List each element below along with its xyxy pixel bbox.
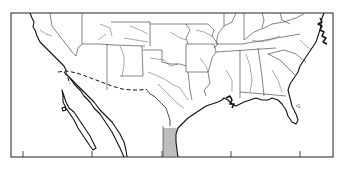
gulf-coastline xyxy=(176,13,324,157)
bottom-ticks xyxy=(23,151,300,157)
map-frame xyxy=(11,13,333,157)
map-container xyxy=(0,0,345,173)
pacific-coastline xyxy=(30,13,127,157)
southern-us-map xyxy=(0,0,345,173)
rio-grande xyxy=(146,89,170,126)
island xyxy=(62,107,66,111)
rivers xyxy=(40,24,312,108)
lake-okeechobee xyxy=(296,104,300,108)
border-segment xyxy=(64,72,70,84)
